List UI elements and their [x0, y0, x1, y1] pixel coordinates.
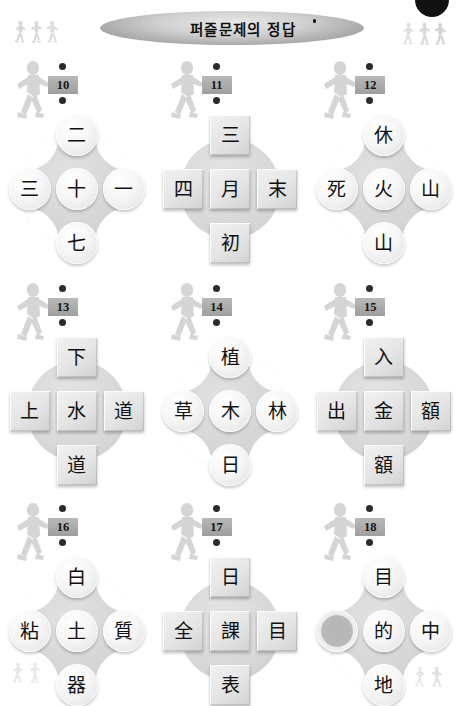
puzzle-card: 16 白 粘 土 質 器 [0, 498, 154, 694]
puzzle-number: 14 [210, 300, 223, 315]
answer-node-bottom[interactable]: 道 [57, 445, 97, 485]
answer-node-bottom[interactable]: 表 [210, 665, 250, 705]
node-glyph: 日 [221, 456, 240, 475]
marker-dot-bottom [213, 97, 220, 104]
node-glyph: 火 [374, 180, 393, 199]
answer-node-top[interactable]: 日 [210, 557, 250, 597]
answer-node-bottom[interactable]: 七 [56, 222, 98, 264]
answer-node-center[interactable]: 土 [56, 610, 98, 652]
puzzle-number: 12 [364, 78, 377, 93]
answer-node-top[interactable]: 下 [57, 337, 97, 377]
answer-node-right[interactable]: 額 [411, 391, 451, 431]
runner-figure-icon [46, 20, 59, 44]
node-glyph: 三 [20, 180, 39, 199]
answer-node-left-blank[interactable] [316, 610, 358, 652]
marker-dot-top [59, 505, 66, 512]
answer-node-right[interactable]: 中 [410, 610, 452, 652]
runner-figure-icon [418, 22, 431, 46]
marker-dot-bottom [366, 319, 373, 326]
answer-node-left[interactable]: 草 [162, 390, 204, 432]
answer-node-right[interactable]: 質 [103, 610, 145, 652]
answer-node-right[interactable]: 目 [257, 611, 297, 651]
answer-node-top[interactable]: 入 [364, 337, 404, 377]
answer-node-bottom[interactable]: 初 [210, 223, 250, 263]
banner-accent-dot [313, 19, 316, 23]
marker-dot-top [213, 505, 220, 512]
answer-node-left[interactable]: 全 [163, 611, 203, 651]
puzzle-card: 10 二 三 十 一 七 [0, 56, 154, 278]
answer-node-top[interactable]: 白 [56, 556, 98, 598]
answer-node-center[interactable]: 十 [56, 168, 98, 210]
answer-node-top[interactable]: 目 [363, 556, 405, 598]
answer-diagram: 二 三 十 一 七 [9, 114, 145, 264]
answer-node-left[interactable]: 出 [317, 391, 357, 431]
node-glyph: 初 [221, 234, 240, 253]
answer-node-right[interactable]: 末 [257, 169, 297, 209]
answer-node-left[interactable]: 上 [10, 391, 50, 431]
node-glyph: 目 [268, 622, 287, 641]
node-glyph: 末 [268, 180, 287, 199]
marker-dot-top [366, 285, 373, 292]
node-glyph: 死 [327, 180, 346, 199]
answer-node-bottom[interactable]: 日 [209, 444, 251, 486]
puzzle-card: 18 目 的 中 地 [307, 498, 461, 694]
node-glyph: 質 [114, 622, 133, 641]
answer-node-left[interactable]: 三 [9, 168, 51, 210]
answer-node-left[interactable]: 死 [316, 168, 358, 210]
puzzle-number-badge: 12 [355, 76, 385, 94]
runner-figure-icon [431, 666, 443, 688]
answer-node-center[interactable]: 木 [209, 390, 251, 432]
puzzle-number: 13 [57, 300, 70, 315]
answer-node-center[interactable]: 月 [210, 169, 250, 209]
runner-figure-icon [30, 20, 43, 44]
answer-node-top[interactable]: 二 [56, 114, 98, 156]
answer-node-top[interactable]: 三 [210, 115, 250, 155]
node-glyph: 金 [374, 402, 393, 421]
answer-node-bottom[interactable]: 額 [364, 445, 404, 485]
answer-node-right[interactable]: 一 [103, 168, 145, 210]
node-glyph: 山 [374, 234, 393, 253]
node-glyph: 四 [174, 180, 193, 199]
answer-node-left[interactable]: 四 [163, 169, 203, 209]
marker-dot-bottom [366, 97, 373, 104]
puzzle-number-badge: 17 [202, 518, 232, 536]
answer-node-center[interactable]: 水 [57, 391, 97, 431]
decorative-runners-left [14, 20, 59, 44]
node-glyph: 草 [174, 402, 193, 421]
page-title: 퍼즐문제의 정답 [190, 18, 296, 39]
node-glyph: 林 [268, 402, 287, 421]
answer-node-right[interactable]: 山 [410, 168, 452, 210]
puzzle-number-marker: 15 [321, 282, 441, 344]
answer-node-center[interactable]: 金 [364, 391, 404, 431]
answer-node-bottom[interactable]: 山 [363, 222, 405, 264]
answer-diagram: 入 出 金 額 額 [316, 336, 452, 486]
answer-diagram: 日 全 課 目 表 [162, 556, 298, 706]
marker-dot-bottom [213, 539, 220, 546]
answer-node-bottom[interactable]: 器 [56, 664, 98, 706]
puzzle-card: 15 入 出 金 額 額 [307, 278, 461, 498]
answer-node-left[interactable]: 粘 [9, 610, 51, 652]
answer-node-center[interactable]: 火 [363, 168, 405, 210]
marker-dot-bottom [59, 319, 66, 326]
answer-node-center[interactable]: 的 [363, 610, 405, 652]
answer-node-top[interactable]: 休 [363, 114, 405, 156]
marker-dot-top [59, 63, 66, 70]
node-glyph: 七 [67, 234, 86, 253]
puzzle-number: 16 [57, 520, 70, 535]
puzzle-number-marker: 10 [14, 60, 134, 122]
puzzle-number-marker: 17 [168, 502, 288, 564]
puzzle-number: 17 [210, 520, 223, 535]
marker-dot-top [366, 63, 373, 70]
puzzle-number-badge: 11 [202, 76, 232, 94]
answer-node-top[interactable]: 植 [209, 336, 251, 378]
node-glyph: 出 [327, 402, 346, 421]
puzzle-number: 18 [364, 520, 377, 535]
answer-node-bottom[interactable]: 地 [363, 664, 405, 706]
answer-node-right[interactable]: 道 [104, 391, 144, 431]
puzzle-number: 10 [57, 78, 70, 93]
answer-node-right[interactable]: 林 [256, 390, 298, 432]
node-glyph: 日 [221, 568, 240, 587]
runner-figure-icon [14, 20, 27, 44]
marker-dot-bottom [59, 97, 66, 104]
answer-node-center[interactable]: 課 [210, 611, 250, 651]
